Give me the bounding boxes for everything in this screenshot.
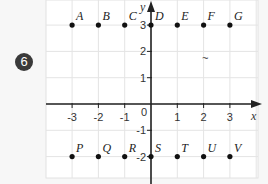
point-label-f: F <box>207 9 216 23</box>
origin-label: 0 <box>141 106 147 118</box>
point-label-c: C <box>129 9 138 23</box>
y-axis-label: y <box>139 0 146 14</box>
y-tick-label: -1 <box>136 124 146 136</box>
point-u <box>201 154 206 159</box>
point-b <box>96 23 101 28</box>
point-e <box>175 23 180 28</box>
point-p <box>70 154 75 159</box>
y-tick-label: 1 <box>140 72 146 84</box>
point-label-p: P <box>75 141 84 155</box>
coordinate-grid: xy -3-2-10123321-1-2 ABCDEFGPQRSTUV ~ <box>0 0 268 184</box>
x-axis-label: x <box>250 109 257 123</box>
point-g <box>227 23 232 28</box>
point-label-s: S <box>155 141 161 155</box>
y-tick-label: 3 <box>140 19 146 31</box>
point-c <box>122 23 127 28</box>
x-tick-label: -1 <box>120 111 130 123</box>
point-a <box>70 23 75 28</box>
point-label-b: B <box>102 9 110 23</box>
point-label-g: G <box>234 9 243 23</box>
x-tick-label: -3 <box>67 111 77 123</box>
x-tick-label: 2 <box>201 111 207 123</box>
point-q <box>96 154 101 159</box>
point-v <box>227 154 232 159</box>
x-tick-label: -2 <box>94 111 104 123</box>
point-r <box>122 154 127 159</box>
point-label-q: Q <box>102 141 111 155</box>
point-s <box>148 154 153 159</box>
point-label-e: E <box>180 9 189 23</box>
point-t <box>175 154 180 159</box>
x-tick-label: 3 <box>227 111 233 123</box>
point-label-a: A <box>75 9 84 23</box>
y-tick-label: -2 <box>136 151 146 163</box>
point-label-r: R <box>128 141 137 155</box>
point-f <box>201 23 206 28</box>
point-label-d: D <box>154 9 164 23</box>
x-tick-label: 1 <box>174 111 180 123</box>
y-tick-label: 2 <box>140 45 146 57</box>
point-label-u: U <box>208 141 218 155</box>
point-d <box>148 23 153 28</box>
stray-mark: ~ <box>202 52 208 64</box>
